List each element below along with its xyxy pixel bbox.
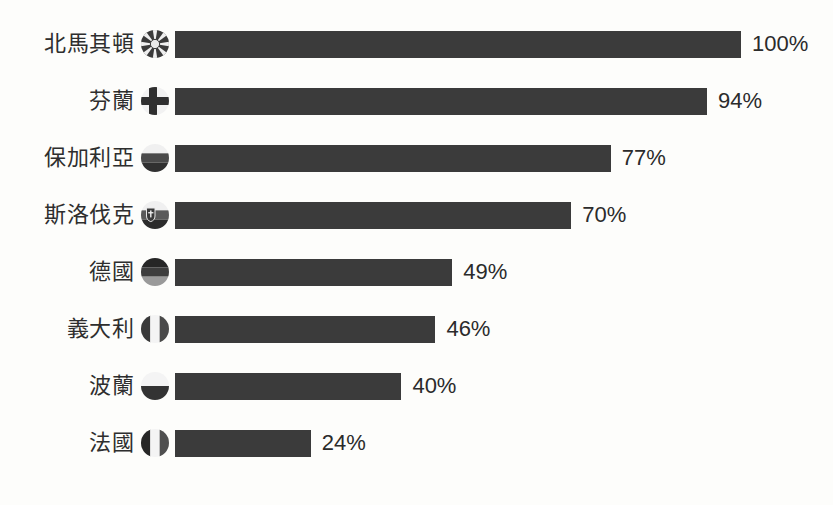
germany-flag-icon <box>141 258 169 286</box>
bar <box>175 202 571 229</box>
slovakia-flag-icon <box>141 201 169 229</box>
bar-value-label: 70% <box>582 204 626 226</box>
bar-value-label: 77% <box>622 147 666 169</box>
north-macedonia-flag-icon <box>141 30 169 58</box>
bar-track: 49% <box>175 250 507 294</box>
bulgaria-flag-icon <box>141 144 169 172</box>
bar-track: 40% <box>175 364 456 408</box>
france-flag-icon <box>141 429 169 457</box>
bar-row: 波蘭40% <box>0 364 833 408</box>
bar-track: 24% <box>175 421 366 465</box>
bar <box>175 316 435 343</box>
category-label: 斯洛伐克 <box>44 204 134 226</box>
bar <box>175 373 401 400</box>
category-label: 德國 <box>89 261 134 283</box>
category-label: 波蘭 <box>89 375 134 397</box>
category-label-group: 北馬其頓 <box>0 22 172 66</box>
bar-row: 芬蘭94% <box>0 79 833 123</box>
bar-value-label: 49% <box>463 261 507 283</box>
bar-row: 北馬其頓100% <box>0 22 833 66</box>
category-label: 芬蘭 <box>89 90 134 112</box>
bar-track: 100% <box>175 22 808 66</box>
bar-track: 77% <box>175 136 666 180</box>
bar-row: 德國49% <box>0 250 833 294</box>
bar-track: 46% <box>175 307 490 351</box>
category-label-group: 芬蘭 <box>0 79 172 123</box>
bar-row: 保加利亞77% <box>0 136 833 180</box>
bar <box>175 31 741 58</box>
category-label-group: 德國 <box>0 250 172 294</box>
bar-row: 義大利46% <box>0 307 833 351</box>
category-label-group: 法國 <box>0 421 172 465</box>
bar-track: 70% <box>175 193 626 237</box>
bar <box>175 430 311 457</box>
category-label-group: 波蘭 <box>0 364 172 408</box>
bar-value-label: 46% <box>446 318 490 340</box>
horizontal-bar-chart: 北馬其頓100%芬蘭94%保加利亞77%斯洛伐克70%德國49%義大利46%波蘭… <box>0 0 833 505</box>
bar-row: 斯洛伐克70% <box>0 193 833 237</box>
category-label-group: 保加利亞 <box>0 136 172 180</box>
bar-row: 法國24% <box>0 421 833 465</box>
category-label-group: 義大利 <box>0 307 172 351</box>
category-label: 保加利亞 <box>44 147 134 169</box>
bar <box>175 145 611 172</box>
category-label-group: 斯洛伐克 <box>0 193 172 237</box>
bar-value-label: 100% <box>752 33 808 55</box>
bar <box>175 88 707 115</box>
category-label: 法國 <box>89 432 134 454</box>
bar <box>175 259 452 286</box>
bar-value-label: 40% <box>412 375 456 397</box>
category-label: 義大利 <box>67 318 135 340</box>
poland-flag-icon <box>141 372 169 400</box>
finland-flag-icon <box>141 87 169 115</box>
bar-value-label: 24% <box>322 432 366 454</box>
bar-track: 94% <box>175 79 762 123</box>
bar-value-label: 94% <box>718 90 762 112</box>
italy-flag-icon <box>141 315 169 343</box>
category-label: 北馬其頓 <box>44 33 134 55</box>
